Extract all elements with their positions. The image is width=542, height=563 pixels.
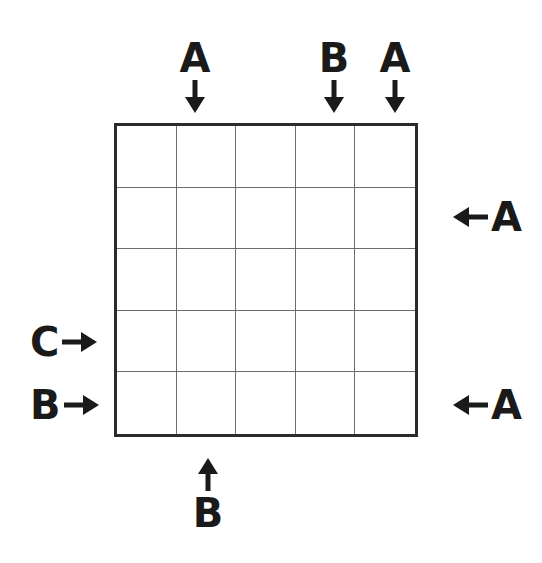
arrow-right-icon — [64, 394, 100, 416]
grid-cell[interactable] — [177, 188, 237, 250]
grid-cell[interactable] — [236, 372, 296, 434]
grid-cell[interactable] — [296, 249, 356, 311]
arrow-down-icon — [184, 80, 206, 114]
grid-cell[interactable] — [117, 311, 177, 373]
grid-cell[interactable] — [117, 188, 177, 250]
clue-left-1: C — [30, 319, 98, 365]
grid-cell[interactable] — [355, 372, 415, 434]
clue-top-3: A — [365, 38, 425, 114]
grid-cell[interactable] — [296, 188, 356, 250]
grid-cell[interactable] — [236, 311, 296, 373]
clue-right-2: A — [452, 382, 522, 428]
grid-cell[interactable] — [177, 311, 237, 373]
arrow-down-icon — [384, 80, 406, 114]
clue-left-1-label: C — [30, 322, 59, 362]
arrow-left-icon — [452, 394, 488, 416]
grid-cell[interactable] — [177, 126, 237, 188]
arrow-down-icon — [323, 80, 345, 114]
grid-cell[interactable] — [117, 372, 177, 434]
grid-cell[interactable] — [117, 249, 177, 311]
grid-cell[interactable] — [117, 126, 177, 188]
arrow-right-icon — [62, 331, 98, 353]
clue-right-1: A — [452, 194, 522, 240]
grid-cell[interactable] — [296, 311, 356, 373]
grid-cell[interactable] — [236, 188, 296, 250]
grid-cell[interactable] — [355, 311, 415, 373]
grid-cell[interactable] — [296, 372, 356, 434]
grid-cell[interactable] — [355, 126, 415, 188]
grid-cell[interactable] — [177, 249, 237, 311]
puzzle-grid — [114, 123, 418, 437]
grid-cell[interactable] — [236, 126, 296, 188]
clue-left-2: B — [30, 382, 100, 428]
clue-top-1-label: A — [180, 38, 211, 78]
clue-bottom-1: B — [178, 457, 238, 533]
clue-top-2: B — [304, 38, 364, 114]
arrow-left-icon — [452, 206, 488, 228]
puzzle-figure: A B A — [0, 0, 542, 563]
grid-cell[interactable] — [355, 249, 415, 311]
grid-cell[interactable] — [177, 372, 237, 434]
grid-cell[interactable] — [236, 249, 296, 311]
clue-top-1: A — [165, 38, 225, 114]
clue-top-3-label: A — [380, 38, 411, 78]
arrow-up-icon — [197, 457, 219, 491]
grid-cell[interactable] — [355, 188, 415, 250]
clue-right-2-label: A — [491, 385, 522, 425]
clue-left-2-label: B — [30, 385, 61, 425]
clue-right-1-label: A — [491, 197, 522, 237]
clue-bottom-1-label: B — [193, 493, 224, 533]
grid-cells-container — [117, 126, 415, 434]
clue-top-2-label: B — [319, 38, 350, 78]
grid-cell[interactable] — [296, 126, 356, 188]
